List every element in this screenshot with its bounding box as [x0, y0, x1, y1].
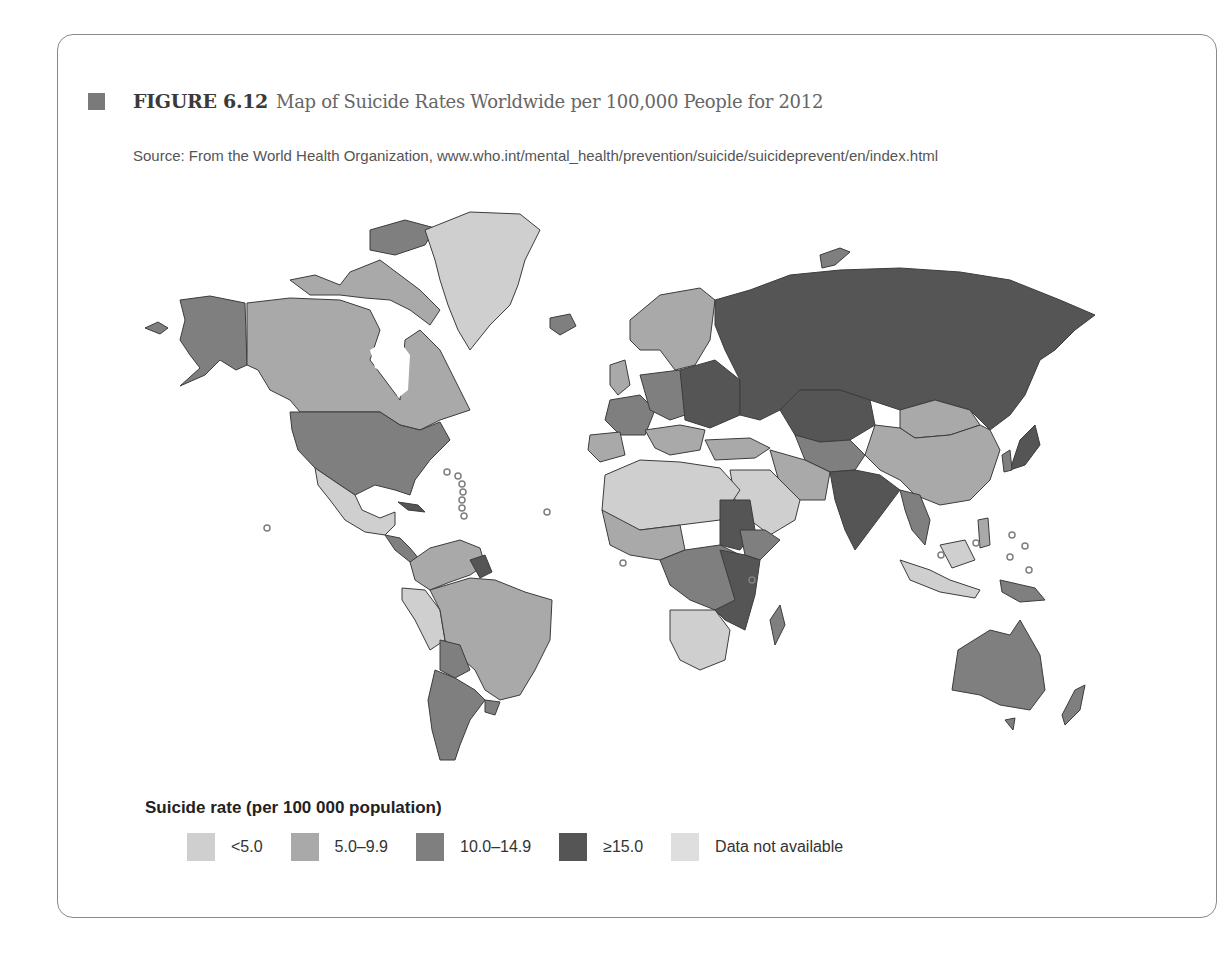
- legend-item-ge15: ≥15.0: [559, 833, 643, 861]
- region-central-america: [385, 535, 420, 562]
- swatch-lt5: [187, 833, 215, 861]
- swatch-10-14: [416, 833, 444, 861]
- region-korea: [1002, 450, 1012, 472]
- region-alaska: [180, 296, 247, 386]
- legend-title: Suicide rate (per 100 000 population): [145, 798, 442, 818]
- region-uk: [610, 360, 630, 395]
- legend-label: 5.0–9.9: [335, 838, 388, 856]
- region-scandinavia: [630, 288, 715, 370]
- region-india: [830, 470, 900, 550]
- legend-label: <5.0: [231, 838, 263, 856]
- region-novaya-zemlya: [820, 248, 850, 268]
- figure-title: Map of Suicide Rates Worldwide per 100,0…: [276, 91, 823, 112]
- region-madagascar: [770, 605, 785, 645]
- region-indonesia: [900, 560, 980, 598]
- legend-label: Data not available: [715, 838, 843, 856]
- world-map: [140, 200, 1120, 770]
- region-guyana: [470, 555, 492, 578]
- swatch-ge15: [559, 833, 587, 861]
- legend-item-lt5: <5.0: [187, 833, 263, 861]
- legend-label: 10.0–14.9: [460, 838, 531, 856]
- region-turkey: [705, 438, 770, 460]
- region-australia: [952, 620, 1045, 710]
- region-southern-africa: [670, 610, 730, 670]
- region-aleutian: [145, 322, 168, 334]
- region-greenland: [425, 212, 540, 350]
- figure-header: FIGURE 6.12 Map of Suicide Rates Worldwi…: [88, 90, 823, 112]
- swatch-5-9: [291, 833, 319, 861]
- region-canada: [247, 298, 470, 430]
- region-tasmania: [1005, 718, 1015, 730]
- map-legend: <5.0 5.0–9.9 10.0–14.9 ≥15.0 Data not av…: [187, 833, 871, 861]
- legend-item-na: Data not available: [671, 833, 843, 861]
- region-canada-arctic2: [370, 220, 435, 255]
- legend-item-5-9: 5.0–9.9: [291, 833, 388, 861]
- region-argentina-chile: [428, 670, 485, 760]
- region-uruguay: [485, 700, 500, 715]
- region-russia: [715, 268, 1095, 430]
- region-new-zealand: [1062, 685, 1085, 725]
- bullet-square-icon: [88, 93, 105, 110]
- region-japan: [1010, 425, 1040, 470]
- region-philippines: [978, 518, 990, 548]
- region-cuba: [398, 502, 425, 512]
- region-iceland: [550, 314, 576, 335]
- swatch-na: [671, 833, 699, 861]
- region-borneo: [940, 540, 975, 568]
- figure-number: FIGURE 6.12: [133, 90, 268, 112]
- figure-source: Source: From the World Health Organizati…: [133, 146, 1093, 166]
- region-iberia: [588, 432, 625, 462]
- region-png: [1000, 580, 1045, 602]
- region-east-europe: [680, 360, 740, 428]
- legend-label: ≥15.0: [603, 838, 643, 856]
- region-kazakhstan: [780, 390, 875, 442]
- region-italy-balkans: [645, 425, 705, 455]
- legend-item-10-14: 10.0–14.9: [416, 833, 531, 861]
